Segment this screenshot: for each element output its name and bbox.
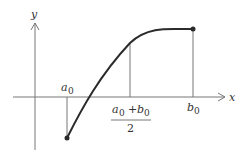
b0-label: b 0	[187, 101, 200, 116]
svg-text:0: 0	[194, 106, 200, 116]
svg-text:+: +	[128, 103, 137, 116]
svg-text:0: 0	[119, 108, 125, 118]
a0-endpoint-dot	[65, 136, 70, 141]
svg-text:0: 0	[144, 108, 150, 118]
svg-text:b: b	[187, 101, 194, 114]
bisection-diagram: y x a 0 a 0 + b 0 2 b 0	[0, 0, 248, 157]
svg-text:a: a	[61, 81, 68, 94]
y-axis-label: y	[30, 8, 38, 21]
midpoint-label: a 0 + b 0 2	[111, 103, 151, 135]
y-axis	[31, 23, 39, 150]
svg-text:2: 2	[127, 122, 134, 135]
b0-endpoint-dot	[191, 27, 196, 32]
svg-text:a: a	[112, 103, 119, 116]
x-axis-label: x	[229, 91, 236, 104]
svg-text:b: b	[137, 103, 144, 116]
a0-label: a 0	[61, 81, 74, 96]
svg-text:0: 0	[68, 86, 74, 96]
